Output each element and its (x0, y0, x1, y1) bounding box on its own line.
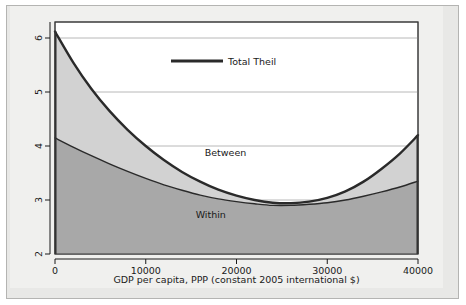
y-tick-label-5: 5 (33, 89, 44, 95)
y-tick-label-2: 2 (33, 251, 44, 257)
chart-figure: 23456 010000200003000040000 GDP per capi… (0, 0, 466, 305)
y-tick-label-4: 4 (33, 143, 44, 149)
x-tick-label-40000: 40000 (403, 265, 433, 276)
annotation-between: Between (205, 147, 247, 158)
theil-decomposition-chart: 23456 010000200003000040000 GDP per capi… (0, 0, 466, 305)
legend-label-total-theil: Total Theil (227, 56, 276, 67)
x-axis-title: GDP per capita, PPP (constant 2005 inter… (113, 274, 359, 285)
annotation-within: Within (196, 209, 226, 220)
y-axis-ticks (45, 38, 50, 254)
y-tick-label-3: 3 (33, 197, 44, 203)
y-tick-label-6: 6 (33, 35, 44, 41)
x-axis-ticks (55, 259, 418, 264)
y-axis-tick-labels: 23456 (33, 35, 44, 257)
x-tick-label-0: 0 (52, 265, 58, 276)
